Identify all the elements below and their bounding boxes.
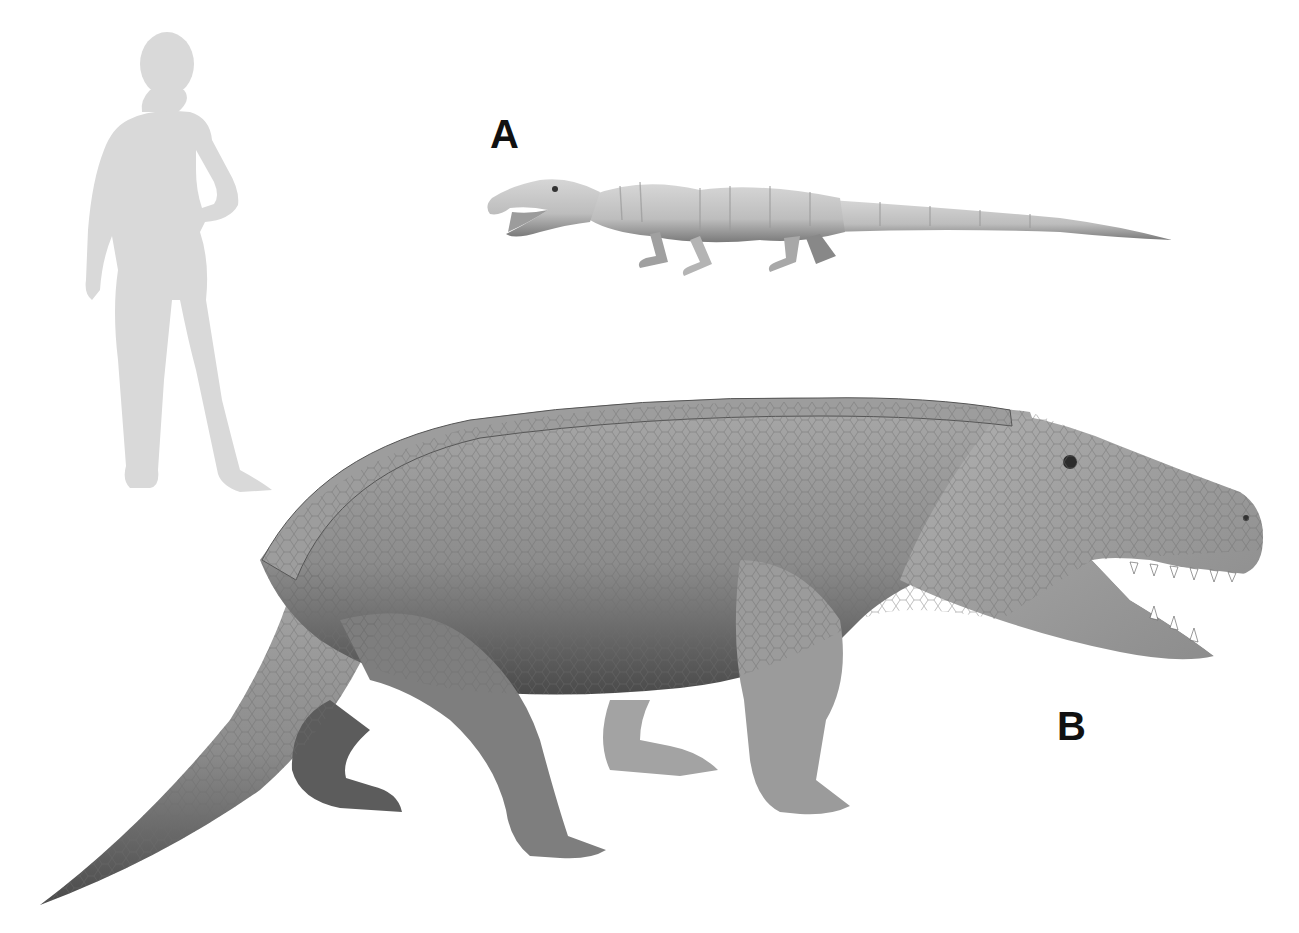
creature-a bbox=[487, 179, 1172, 276]
human-silhouette bbox=[86, 32, 272, 492]
illustration-canvas bbox=[0, 0, 1299, 933]
label-a: A bbox=[490, 114, 519, 154]
illustration: A B bbox=[0, 0, 1299, 933]
label-b: B bbox=[1057, 706, 1086, 746]
